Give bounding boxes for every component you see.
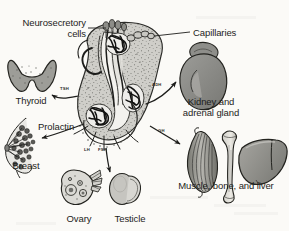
organ-label-kidney-adrenal-gland: Kidney and adrenal gland — [172, 97, 250, 118]
endocrine-system-figure: Neurosecretory cells Capillaries Thyroid… — [0, 0, 289, 231]
hormone-label-prolactin: Prolactin — [38, 122, 74, 133]
ovary-illustration — [61, 170, 102, 205]
organ-label-ovary: Ovary — [55, 214, 103, 225]
hormone-label-adh: ADH — [152, 82, 162, 87]
hormone-label-gh: GH — [158, 128, 165, 133]
leader-capillaries — [154, 32, 190, 36]
callout-neurosecretory-cells: Neurosecretory cells — [8, 18, 86, 39]
organ-label-breast: Breast — [2, 161, 50, 172]
organ-label-thyroid: Thyroid — [3, 96, 59, 107]
hormone-label-lh: LH — [84, 147, 90, 152]
primary-capillary-plexus — [106, 33, 130, 55]
liver-illustration — [239, 139, 287, 184]
hormone-label-tsh: TSH — [60, 86, 69, 91]
posterior-lobe-plexus — [122, 84, 144, 112]
bone-illustration — [222, 131, 236, 203]
thyroid-illustration — [8, 60, 56, 91]
callout-capillaries: Capillaries — [193, 28, 263, 39]
organ-label-testicle: Testicle — [105, 214, 155, 225]
organ-label-muscle-bone-liver: Muscle, bone, and liver — [165, 181, 287, 192]
hypothalamus-pituitary-illustration — [74, 20, 162, 150]
secondary-capillary-plexus — [86, 104, 112, 128]
testicle-illustration — [110, 174, 141, 205]
hormone-label-fsh: FSH — [98, 147, 107, 152]
arrow-gh-to-muscle — [150, 126, 180, 144]
